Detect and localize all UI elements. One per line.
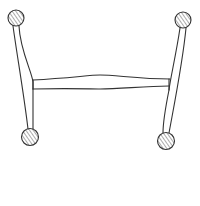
right-leg xyxy=(163,28,186,133)
ball-top-left xyxy=(8,10,24,26)
center-stretcher xyxy=(33,75,170,90)
left-leg xyxy=(13,26,33,129)
ball-bottom-left xyxy=(22,129,39,146)
ball-bottom-right xyxy=(158,133,175,150)
ball-top-right xyxy=(175,12,191,28)
furniture-frame-drawing xyxy=(0,0,200,206)
